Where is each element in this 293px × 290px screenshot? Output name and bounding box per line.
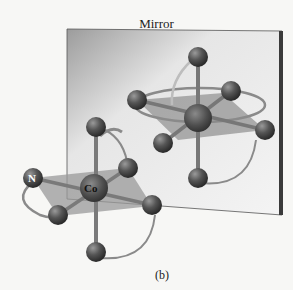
nitrogen-atom: N: [23, 168, 43, 188]
cobalt-label: Co: [84, 182, 98, 194]
nitrogen-label: N: [28, 172, 36, 184]
enantiomer-diagram: N Co: [0, 0, 293, 290]
cobalt-atom: Co: [80, 174, 108, 202]
figure-caption: (b): [155, 268, 169, 283]
